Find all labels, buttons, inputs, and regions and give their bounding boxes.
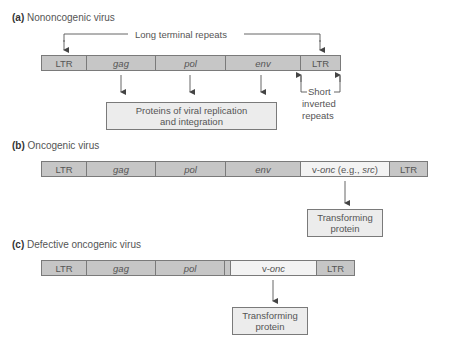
genome-bar-b: LTR gag pol env v-onc (e.g., src) LTR bbox=[41, 161, 428, 177]
segment-gag: gag bbox=[87, 261, 156, 275]
vonc-prefix: v- bbox=[312, 164, 320, 175]
segment-gag: gag bbox=[87, 162, 156, 176]
repeats-label: repeats bbox=[302, 110, 334, 121]
box-line-2: protein bbox=[308, 223, 382, 234]
transforming-protein-box-c: Transforming protein bbox=[232, 307, 308, 335]
segment-gag: gag bbox=[87, 56, 156, 70]
vonc-src: src bbox=[362, 164, 375, 175]
genome-bar-a: LTR gag pol env LTR bbox=[41, 55, 341, 71]
vonc-italic: onc bbox=[270, 263, 285, 274]
ltr-label: Long terminal repeats bbox=[135, 29, 227, 40]
panel-b-title-text: Oncogenic virus bbox=[28, 140, 100, 151]
short-label: Short bbox=[308, 86, 331, 97]
panel-c-title-text: Defective oncogenic virus bbox=[27, 239, 141, 250]
segment-v-onc: v-onc bbox=[231, 261, 317, 275]
inverted-label: inverted bbox=[302, 98, 336, 109]
segment-v-onc: v-onc (e.g., src) bbox=[301, 162, 390, 176]
box-line-1: Transforming bbox=[308, 212, 382, 223]
segment-ltr-left: LTR bbox=[42, 162, 87, 176]
genome-bar-c: LTR gag pol v-onc LTR bbox=[41, 260, 355, 276]
panel-a-title: (a) Nononcogenic virus bbox=[12, 12, 115, 23]
segment-pol: pol bbox=[156, 162, 226, 176]
panel-a-letter: (a) bbox=[12, 12, 24, 23]
panel-c-title: (c) Defective oncogenic virus bbox=[12, 239, 141, 250]
vonc-italic: onc bbox=[320, 164, 335, 175]
segment-ltr-right: LTR bbox=[390, 162, 427, 176]
box-line-1: Proteins of viral replication bbox=[107, 105, 276, 116]
segment-pol: pol bbox=[156, 56, 226, 70]
segment-ltr-left: LTR bbox=[42, 261, 87, 275]
vonc-prefix: v- bbox=[262, 263, 270, 274]
panel-b-letter: (b) bbox=[12, 140, 25, 151]
segment-ltr-right: LTR bbox=[317, 261, 354, 275]
box-line-2: protein bbox=[233, 321, 307, 332]
segment-env: env bbox=[226, 162, 301, 176]
segment-env: env bbox=[226, 56, 301, 70]
box-line-1: Transforming bbox=[233, 310, 307, 321]
panel-b-title: (b) Oncogenic virus bbox=[12, 140, 99, 151]
segment-pol: pol bbox=[156, 261, 225, 275]
panel-a-title-text: Nononcogenic virus bbox=[27, 12, 115, 23]
vonc-mid: (e.g., bbox=[335, 164, 362, 175]
vonc-end: ) bbox=[375, 164, 378, 175]
segment-ltr-left: LTR bbox=[42, 56, 87, 70]
replication-protein-box: Proteins of viral replication and integr… bbox=[106, 102, 277, 130]
box-line-2: and integration bbox=[107, 116, 276, 127]
panel-c-letter: (c) bbox=[12, 239, 24, 250]
segment-ltr-right: LTR bbox=[301, 56, 340, 70]
connector-lines bbox=[0, 0, 451, 357]
transforming-protein-box-b: Transforming protein bbox=[307, 209, 383, 237]
